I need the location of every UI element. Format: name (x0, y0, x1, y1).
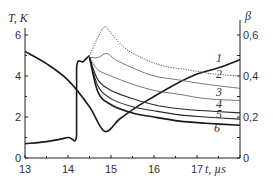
x-tick-label: 13 (19, 163, 31, 175)
curve-label-1: 1 (216, 51, 222, 65)
x-tick-label: 15 (105, 163, 117, 175)
y-left-tick-label: 6 (15, 29, 21, 41)
curve-label-5: 5 (216, 107, 222, 121)
y-left-tick-label: 4 (15, 70, 21, 82)
chart-svg: 1314151617024600,20,40,6T, Kβt, µs123456 (0, 0, 273, 188)
curve-label-6: 6 (214, 121, 220, 135)
y-right-tick-label: 0,6 (243, 29, 258, 41)
curve-label-2: 2 (216, 67, 222, 81)
y-left-tick-label: 0 (15, 152, 21, 164)
x-tick-label: 17 (191, 163, 203, 175)
labels-layer: 1314151617024600,20,40,6T, Kβt, µs123456 (8, 9, 258, 176)
y-right-tick-label: 0,4 (243, 70, 258, 82)
y-right-tick-label: 0 (243, 152, 249, 164)
y-left-tick-label: 2 (15, 111, 21, 123)
series-line-1 (25, 51, 240, 131)
x-tick-label: 16 (148, 163, 160, 175)
y-left-axis-title: T, K (8, 11, 29, 25)
series-layer (25, 27, 240, 144)
x-tick-label: 14 (62, 163, 74, 175)
y-right-axis-title: β (244, 9, 251, 23)
chart-figure: 1314151617024600,20,40,6T, Kβt, µs123456 (0, 0, 273, 188)
axes (25, 20, 240, 158)
series-line-2 (25, 56, 90, 144)
x-axis-title: t, µs (205, 162, 226, 176)
y-right-tick-label: 0,2 (243, 111, 258, 123)
